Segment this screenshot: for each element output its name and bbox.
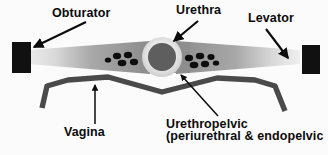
urethra-lumen bbox=[148, 43, 176, 71]
urethra-structure bbox=[142, 37, 182, 77]
diagram-canvas: Obturator Urethra Levator Vagina Urethro… bbox=[0, 0, 328, 155]
label-urethropelvic-line2: (periurethral & endopelvic bbox=[166, 130, 324, 143]
label-urethropelvic: Urethropelvic (periurethral & endopelvic bbox=[166, 118, 324, 143]
label-vagina: Vagina bbox=[64, 126, 105, 139]
vagina-outline bbox=[42, 77, 285, 111]
levator-sheet-left bbox=[28, 41, 150, 74]
arrow-urethra bbox=[174, 21, 198, 41]
levator-sheet-right bbox=[176, 41, 300, 74]
obturator-block-right bbox=[302, 45, 320, 74]
label-levator: Levator bbox=[248, 12, 294, 25]
label-urethra: Urethra bbox=[176, 4, 221, 17]
label-obturator: Obturator bbox=[52, 7, 111, 20]
obturator-block-left bbox=[12, 42, 31, 73]
arrow-obturator bbox=[34, 22, 86, 47]
